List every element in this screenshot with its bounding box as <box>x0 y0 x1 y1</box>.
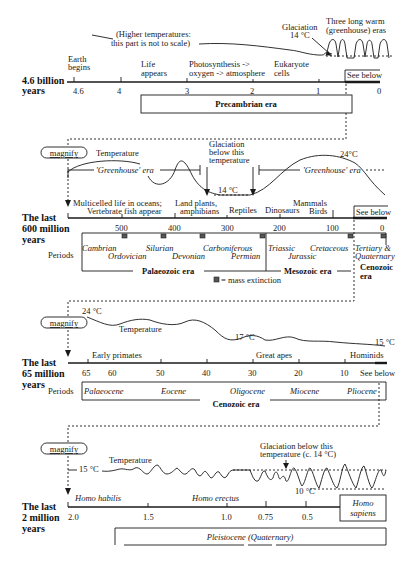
event-multicelled-2: Vertebrate fish appear <box>87 206 162 216</box>
panel2-title-line1: The last <box>22 212 57 223</box>
greenhouse-era-1: 'Greenhouse' era <box>96 165 154 175</box>
temp-end-3: 15 °C <box>375 337 395 347</box>
temperature-curve-precambrian <box>199 43 332 55</box>
greenhouse-era-2: 'Greenhouse' era <box>303 165 361 175</box>
temperature-label-3: Temperature <box>119 324 162 334</box>
mass-extinction-marker <box>260 234 265 238</box>
arrow-down-icon <box>204 189 210 196</box>
temperature-label-4: Temperature <box>109 455 152 465</box>
glaciation-temp: 14 °C <box>290 30 310 40</box>
tick-400: 400 <box>168 223 181 233</box>
panel-65-million-years: magnify 24 °C Temperature 17 °C 15 °C Ea… <box>22 306 396 409</box>
mass-extinction-marker <box>122 234 127 238</box>
mass-extinction-marker <box>348 234 353 238</box>
species-homo-erectus: Homo erectus <box>191 493 240 503</box>
arrow-down-icon <box>65 200 71 207</box>
mass-extinction-marker <box>161 234 166 238</box>
period-quaternary: Quaternary <box>355 251 395 261</box>
tick-60: 60 <box>108 368 117 378</box>
tick-1: 1 <box>316 86 320 96</box>
see-below-link[interactable]: See below <box>347 70 383 80</box>
panel4-title-line1: The last <box>22 501 57 512</box>
period-permian: Permian <box>230 251 260 261</box>
tick-1-5: 1.5 <box>143 512 154 522</box>
event-early-primates: Early primates <box>92 350 142 360</box>
panel2-title-line3: years <box>22 234 45 245</box>
magnify-label-4[interactable]: magnify <box>50 444 79 454</box>
warm-label-line2: (greenhouse) eras <box>326 25 386 35</box>
panel4-title-line2: 2 million <box>22 512 60 523</box>
panel-4-6-billion-years: (Higher temperatures: this part is not t… <box>22 16 392 113</box>
period-silurian: Silurian <box>146 243 173 253</box>
tick-20: 20 <box>294 368 303 378</box>
period-devonian: Devonian <box>171 251 205 261</box>
event-photosynthesis-2: oxygen -> atmosphere <box>189 68 265 78</box>
event-birds: Birds <box>309 206 327 216</box>
period-miocene: Miocene <box>289 386 319 396</box>
tick-0: 0 <box>380 223 384 233</box>
period-cretaceous: Cretaceous <box>310 243 349 253</box>
tick-300: 300 <box>221 223 234 233</box>
species-homo-habilis: Homo habilis <box>74 493 122 503</box>
mass-extinction-marker <box>381 234 386 238</box>
temp-high-2: 24°C <box>340 149 358 159</box>
tick-4: 4 <box>117 86 122 96</box>
event-life-appears-2: appears <box>141 68 167 78</box>
event-great-apes: Great apes <box>256 350 292 360</box>
tick-30: 30 <box>248 368 257 378</box>
event-earth-begins-2: begins <box>68 62 90 72</box>
arrow-down-icon <box>65 488 71 495</box>
legend-mass-extinction-icon <box>214 277 219 282</box>
see-below-link-3[interactable]: See below <box>360 368 396 378</box>
see-below-link-2[interactable]: See below <box>356 207 392 217</box>
tick-4-6: 4.6 <box>73 86 84 96</box>
glaciation-4-line2: temperature (c. 14 °C) <box>260 449 336 459</box>
homo-sapiens-line2: sapiens <box>350 508 376 518</box>
glaciation-line3: temperature <box>209 155 250 165</box>
greenhouse-eras-curve <box>326 40 389 59</box>
period-oligocene: Oligocene <box>230 386 265 396</box>
geologic-timeline-diagram: (Higher temperatures: this part is not t… <box>0 0 416 568</box>
tick-0-75: 0.75 <box>258 512 273 522</box>
era-cenozoic-3: Cenozoic era <box>213 399 261 409</box>
tick-10: 10 <box>340 368 349 378</box>
tick-200: 200 <box>273 223 286 233</box>
event-reptiles: Reptiles <box>229 205 257 215</box>
temperature-curve-4 <box>102 464 386 488</box>
tick-40: 40 <box>202 368 211 378</box>
temp-low-2: 14 °C <box>218 185 238 195</box>
tick-500: 500 <box>115 223 128 233</box>
tick-2: 2 <box>250 86 254 96</box>
panel3-title-line1: The last <box>22 357 57 368</box>
period-eocene: Eocene <box>160 386 186 396</box>
event-eukaryote-2: cells <box>274 68 290 78</box>
tick-3: 3 <box>185 86 189 96</box>
tick-0: 0 <box>377 86 381 96</box>
tick-50: 50 <box>156 368 165 378</box>
temp-mid-3: 17 °C <box>235 332 255 342</box>
precambrian-era-label: Precambrian era <box>215 99 277 109</box>
era-mesozoic: Mesozoic era <box>284 266 332 276</box>
arrow-down-icon <box>283 463 289 469</box>
magnify-label-3[interactable]: magnify <box>50 318 79 328</box>
tick-1-0: 1.0 <box>221 512 232 522</box>
magnify-label-2[interactable]: magnify <box>50 148 79 158</box>
period-palaeocene: Palaeocene <box>83 386 124 396</box>
panel-2-million-years: magnify 15 °C Temperature Glaciation bel… <box>22 441 386 545</box>
period-pliocene: Pliocene <box>346 386 377 396</box>
period-pleistocene: Pleistocene (Quaternary) <box>206 532 294 542</box>
homo-sapiens-line1: Homo <box>352 498 374 508</box>
period-ordovician: Ordovician <box>108 251 146 261</box>
mass-extinction-marker <box>200 234 205 238</box>
temp-low-4: 10 °C <box>295 486 315 496</box>
era-cenozoic-2: era <box>360 271 373 281</box>
periods-label-2: Periods <box>48 250 74 260</box>
panel3-title-line3: years <box>22 379 45 390</box>
temp-curve-2b <box>148 155 385 195</box>
panel2-title-line2: 600 million <box>22 223 70 234</box>
temperature-label-2: Temperature <box>96 148 139 158</box>
tick-100: 100 <box>326 223 339 233</box>
panel-600-million-years: magnify Temperature 'Greenhouse' era Gla… <box>22 139 395 300</box>
arrow-down-icon <box>65 350 71 357</box>
tick-0-5: 0.5 <box>302 512 313 522</box>
